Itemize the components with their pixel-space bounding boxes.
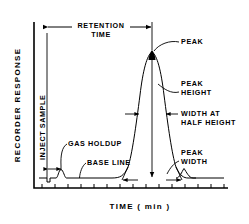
peak-height-label-line2: HEIGHT	[181, 88, 212, 97]
retention-time-label-line1: RETENTION	[78, 21, 125, 30]
retention-time-label-line2: TIME	[91, 30, 111, 39]
peak-width-label-line2: WIDTH	[181, 157, 208, 166]
chromatogram-svg: RECORDER RESPONSE TIME ( min ) INJECT SA…	[0, 0, 249, 224]
peak-label: PEAK	[181, 37, 204, 46]
base-line-leader	[80, 163, 87, 178]
peak-height-label-line1: PEAK	[181, 79, 204, 88]
width-half-height-label-line1: WIDTH AT	[181, 109, 220, 118]
gas-holdup-time-arrow	[48, 166, 61, 170]
peak-leader	[154, 41, 179, 51]
gas-holdup-leader	[61, 144, 67, 166]
y-axis-label: RECORDER RESPONSE	[13, 48, 22, 163]
gas-holdup-label: GAS HOLDUP	[68, 139, 122, 148]
base-line-label: BASE LINE	[87, 158, 131, 167]
peak-height-leader	[158, 84, 179, 92]
peak-width-leader	[167, 161, 179, 174]
peak-width-label-line1: PEAK	[181, 148, 204, 157]
inject-sample-label: INJECT SAMPLE	[38, 95, 47, 160]
chromatogram-figure: RECORDER RESPONSE TIME ( min ) INJECT SA…	[0, 0, 249, 224]
width-half-height-label-line2: HALF HEIGHT	[181, 118, 236, 127]
x-axis-label: TIME ( min )	[110, 202, 171, 211]
